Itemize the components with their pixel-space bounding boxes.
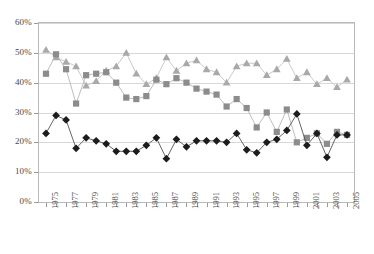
data-point — [213, 92, 219, 98]
x-axis-tickmark — [186, 203, 187, 207]
data-point — [284, 106, 290, 112]
series-line — [46, 114, 347, 159]
data-point — [163, 155, 171, 163]
series-triangle — [42, 46, 351, 90]
data-point — [42, 130, 50, 138]
data-point — [132, 147, 140, 155]
data-point — [53, 51, 59, 57]
x-axis-tick-label: 1983 — [130, 192, 140, 209]
data-point — [224, 103, 230, 109]
x-axis-tickmark — [166, 203, 167, 207]
data-point — [133, 96, 139, 102]
x-axis-tickmark — [287, 203, 288, 207]
x-axis-tick-label: 1979 — [90, 192, 100, 209]
x-axis-tick-label: 1999 — [291, 192, 301, 209]
data-point — [43, 71, 49, 77]
data-point — [173, 67, 181, 74]
data-point — [234, 96, 240, 102]
data-point — [63, 66, 69, 72]
x-axis-tickmark — [207, 203, 208, 207]
y-axis-tick-label: 50% — [0, 47, 32, 57]
data-point — [132, 70, 140, 77]
y-axis-tick-label: 30% — [0, 107, 32, 117]
x-axis-tickmark — [66, 203, 67, 207]
data-point — [112, 147, 120, 155]
plot-area — [38, 22, 355, 203]
y-axis-tick-label: 20% — [0, 136, 32, 146]
series-line — [46, 50, 347, 87]
x-axis-tick-label: 1991 — [211, 192, 221, 209]
data-point — [283, 55, 291, 62]
x-axis-tickmark — [267, 203, 268, 207]
x-axis-tick-label: 2005 — [351, 192, 361, 209]
x-axis-tickmark — [327, 203, 328, 207]
x-axis-tickmark — [46, 203, 47, 207]
x-axis-tick-label: 1981 — [110, 192, 120, 209]
x-axis-tickmark — [146, 203, 147, 207]
x-axis-tick-label: 1985 — [150, 192, 160, 209]
x-axis-tick-label: 1989 — [190, 192, 200, 209]
data-point — [303, 68, 311, 75]
data-point — [323, 153, 331, 161]
data-point — [343, 76, 351, 83]
data-point — [193, 137, 201, 145]
data-point — [173, 75, 179, 81]
data-point — [143, 93, 149, 99]
x-axis-tick-label: 1997 — [271, 192, 281, 209]
data-point — [243, 59, 251, 66]
y-axis-tick-label: 60% — [0, 17, 32, 27]
data-point — [293, 110, 301, 118]
data-point — [142, 141, 150, 149]
data-point — [153, 77, 159, 83]
x-axis-tickmark — [347, 203, 348, 207]
data-point — [253, 59, 261, 66]
data-point — [173, 135, 181, 143]
data-point — [183, 80, 189, 86]
data-point — [73, 100, 79, 106]
data-point — [42, 46, 50, 53]
data-point — [243, 146, 251, 154]
data-point — [193, 86, 199, 92]
data-point — [83, 72, 89, 78]
y-axis-tick-label: 0% — [0, 196, 32, 206]
data-point — [183, 143, 191, 151]
y-axis-tick-label: 40% — [0, 77, 32, 87]
x-axis-tick-label: 1987 — [170, 192, 180, 209]
x-axis-tickmark — [247, 203, 248, 207]
data-point — [113, 80, 119, 86]
x-axis-tick-label: 1977 — [70, 192, 80, 209]
data-point — [152, 134, 160, 142]
data-point — [122, 147, 130, 155]
x-axis-tickmark — [227, 203, 228, 207]
data-point — [122, 49, 130, 56]
data-point — [244, 105, 250, 111]
data-point — [62, 116, 70, 124]
data-point — [264, 109, 270, 115]
data-point — [203, 89, 209, 95]
data-point — [62, 58, 70, 65]
data-point — [293, 74, 301, 81]
x-axis-tick-label: 1995 — [251, 192, 261, 209]
x-axis-tickmark — [307, 203, 308, 207]
data-point — [103, 69, 109, 75]
data-point — [203, 137, 211, 145]
x-axis-tick-label: 2001 — [311, 192, 321, 209]
data-point — [123, 94, 129, 100]
x-axis-tickmark — [126, 203, 127, 207]
series-layer — [39, 23, 354, 202]
data-point — [213, 137, 221, 145]
data-point — [323, 74, 331, 81]
data-point — [193, 56, 201, 63]
data-point — [163, 81, 169, 87]
x-axis-tick-label: 2003 — [331, 192, 341, 209]
data-point — [92, 137, 100, 145]
x-axis-tickmark — [106, 203, 107, 207]
series-square — [43, 51, 350, 147]
x-axis-tickmark — [86, 203, 87, 207]
data-point — [274, 129, 280, 135]
x-axis-tick-label: 1975 — [50, 192, 60, 209]
data-point — [324, 141, 330, 147]
data-point — [163, 53, 171, 60]
data-point — [102, 140, 110, 148]
x-axis-tick-label: 1993 — [231, 192, 241, 209]
